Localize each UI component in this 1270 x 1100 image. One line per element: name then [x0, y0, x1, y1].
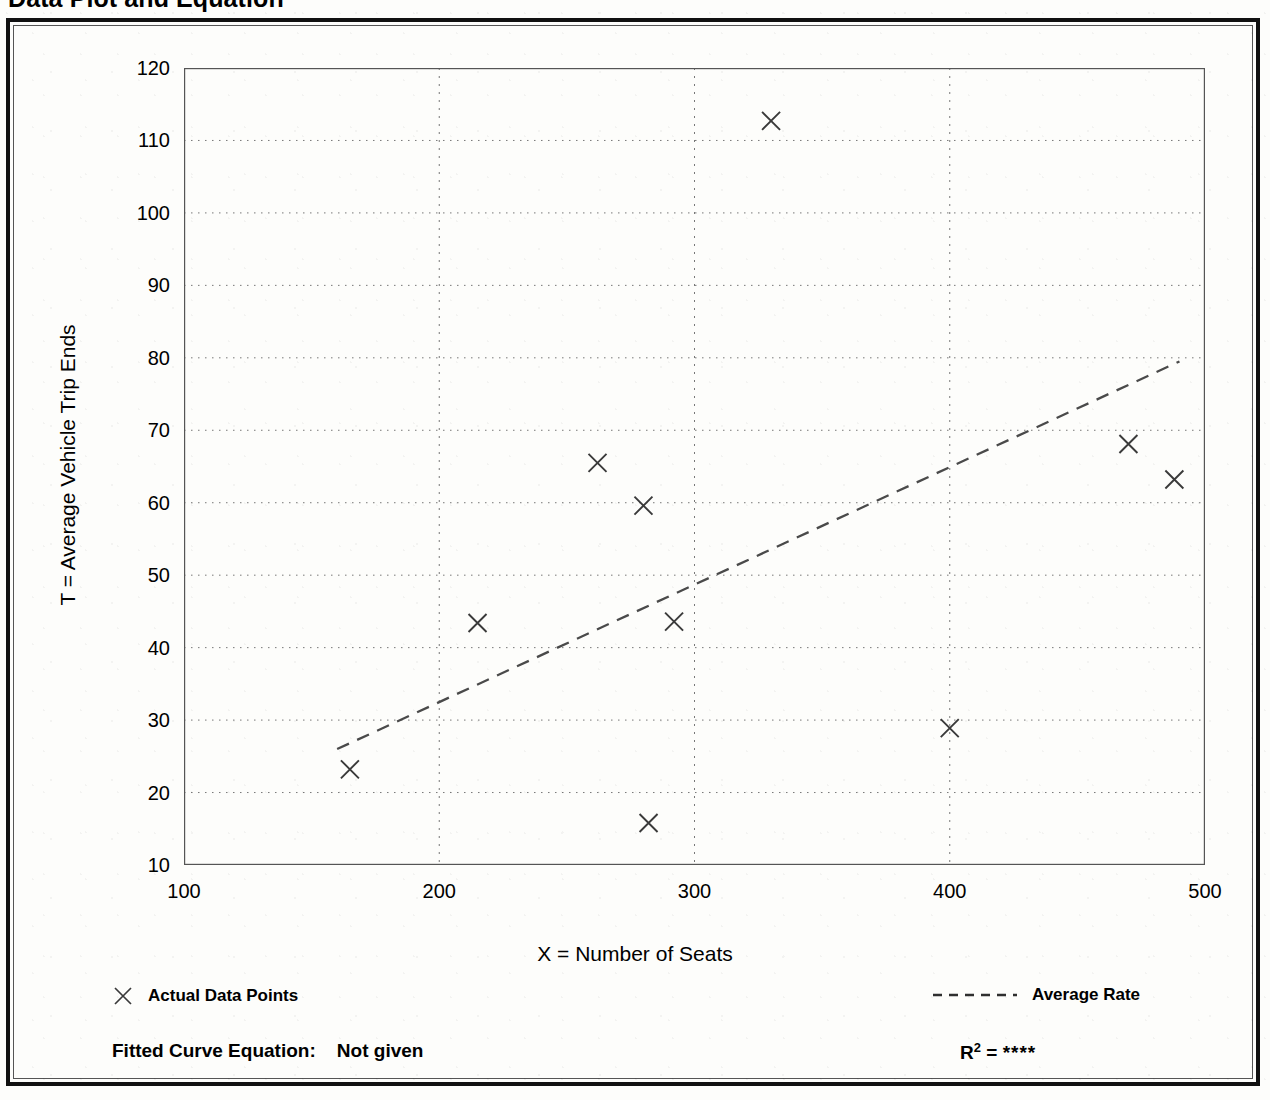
- x-marker-icon: [112, 985, 134, 1007]
- y-axis-label-text: T = Average Vehicle Trip Ends: [56, 324, 80, 605]
- y-tick-label: 100: [137, 201, 170, 224]
- y-axis-label: T = Average Vehicle Trip Ends: [48, 60, 88, 870]
- y-tick-label: 70: [148, 419, 170, 442]
- data-point-marker: [634, 497, 652, 515]
- x-tick-label-group: 100200300400500: [0, 880, 1270, 910]
- plot-frame: [185, 69, 1205, 865]
- data-point-marker: [640, 814, 658, 832]
- data-point-marker: [589, 454, 607, 472]
- x-tick-label: 200: [423, 880, 456, 903]
- plot-area: [184, 68, 1205, 865]
- r-squared-exponent: 2: [974, 1040, 981, 1055]
- y-tick-label: 20: [148, 781, 170, 804]
- x-tick-label: 500: [1188, 880, 1221, 903]
- legend-item-average-rate: Average Rate: [932, 985, 1140, 1005]
- r-squared-label: R: [960, 1042, 974, 1063]
- grid-lines: [184, 68, 1205, 865]
- r-squared-value: ****: [1003, 1042, 1037, 1063]
- y-tick-label: 90: [148, 274, 170, 297]
- r-squared-equals: =: [986, 1042, 997, 1063]
- trend-line: [337, 361, 1179, 749]
- scatter-plot-svg: [184, 68, 1205, 865]
- x-tick-label: 100: [167, 880, 200, 903]
- data-point-marker: [762, 112, 780, 130]
- r-squared: R2 = ****: [960, 1040, 1036, 1064]
- data-point-marker: [341, 760, 359, 778]
- x-tick-label: 400: [933, 880, 966, 903]
- fitted-curve-equation: Fitted Curve Equation: Not given: [112, 1040, 423, 1062]
- y-tick-label: 30: [148, 709, 170, 732]
- y-tick-label: 80: [148, 346, 170, 369]
- legend: Actual Data Points Average Rate: [0, 985, 1270, 1015]
- y-tick-label: 110: [138, 129, 170, 152]
- data-point-group: [341, 112, 1183, 832]
- y-tick-label: 50: [148, 564, 170, 587]
- y-tick-label-group: 120110100908070605040302010: [118, 0, 170, 1100]
- x-tick-label: 300: [678, 880, 711, 903]
- legend-label-data-points: Actual Data Points: [148, 986, 298, 1006]
- x-axis-label: X = Number of Seats: [0, 942, 1270, 966]
- fitted-curve-equation-value: Not given: [337, 1040, 424, 1061]
- data-point-marker: [665, 613, 683, 631]
- y-tick-label: 10: [148, 854, 170, 877]
- dashed-line-icon: [932, 990, 1018, 1000]
- legend-label-average-rate: Average Rate: [1032, 985, 1140, 1005]
- y-tick-label: 40: [148, 636, 170, 659]
- y-tick-label: 120: [137, 57, 170, 80]
- data-point-marker: [1119, 435, 1137, 453]
- fitted-curve-equation-label: Fitted Curve Equation:: [112, 1040, 316, 1061]
- y-tick-label: 60: [148, 491, 170, 514]
- footer: Fitted Curve Equation: Not given R2 = **…: [0, 1040, 1270, 1074]
- data-point-marker: [1165, 471, 1183, 489]
- data-point-marker: [941, 719, 959, 737]
- plot-page: Data Plot and Equation T = Average Vehic…: [0, 0, 1270, 1100]
- legend-item-data-points: Actual Data Points: [112, 985, 298, 1007]
- axis-ticks: [184, 68, 1205, 865]
- data-point-marker: [469, 614, 487, 632]
